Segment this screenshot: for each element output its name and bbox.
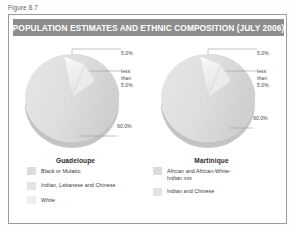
leader-line-top-guadeloupe bbox=[72, 49, 121, 54]
pie-label-bottom-martinique: 90.0% bbox=[253, 115, 268, 122]
pie-chart-martinique: 5.0% less than 5.0% 90.0% Martinique bbox=[149, 38, 284, 166]
figure-container: Figure 8.7 POPULATION ESTIMATES AND ETHN… bbox=[0, 0, 296, 232]
pie-label-middle-guadeloupe: less than 5.0% bbox=[121, 68, 133, 90]
legend-item: African and African-White- Indian mix bbox=[153, 167, 288, 182]
legend-item-label: White bbox=[41, 196, 55, 204]
legend-item: Indian, Lebanese and Chinese bbox=[27, 182, 162, 191]
chart-caption-guadeloupe: Guadeloupe bbox=[13, 157, 138, 164]
legend-item: Black or Mulatto bbox=[27, 167, 162, 176]
legend-item: Indian and Chinese bbox=[153, 188, 288, 197]
legend-swatch-icon bbox=[153, 188, 162, 196]
figure-panel: POPULATION ESTIMATES AND ETHNIC COMPOSIT… bbox=[8, 14, 287, 224]
pie-chart-guadeloupe: 5.0% less than 5.0% 90.0% Guadeloupe bbox=[13, 38, 148, 166]
pie-label-top-guadeloupe: 5.0% bbox=[121, 50, 133, 57]
chart-caption-martinique: Martinique bbox=[149, 157, 274, 164]
pie-svg-martinique bbox=[153, 40, 279, 156]
legend-swatch-icon bbox=[27, 196, 36, 204]
pie-label-bottom-guadeloupe: 90.0% bbox=[117, 123, 132, 130]
legend: Black or Mulatto Indian, Lebanese and Ch… bbox=[13, 167, 284, 220]
legend-swatch-icon bbox=[153, 167, 162, 175]
pie-label-top-martinique: 5.0% bbox=[257, 50, 269, 57]
legend-item-label: African and African-White- Indian mix bbox=[167, 167, 231, 182]
legend-swatch-icon bbox=[27, 167, 36, 175]
legend-item-label: Indian and Chinese bbox=[167, 188, 214, 196]
legend-item: White bbox=[27, 196, 162, 205]
legend-item-label: Black or Mulatto bbox=[41, 167, 80, 175]
legend-item-label: Indian, Lebanese and Chinese bbox=[41, 182, 116, 190]
charts-area: 5.0% less than 5.0% 90.0% Guadeloupe bbox=[13, 38, 284, 166]
page-title: POPULATION ESTIMATES AND ETHNIC COMPOSIT… bbox=[13, 23, 285, 33]
title-bar: POPULATION ESTIMATES AND ETHNIC COMPOSIT… bbox=[13, 19, 284, 36]
legend-swatch-icon bbox=[27, 182, 36, 190]
figure-caption: Figure 8.7 bbox=[8, 4, 38, 11]
leader-line-top-martinique bbox=[208, 49, 257, 54]
pie-label-middle-martinique: less than 5.0% bbox=[257, 68, 269, 90]
legend-column-guadeloupe: Black or Mulatto Indian, Lebanese and Ch… bbox=[27, 167, 162, 211]
pie-svg-guadeloupe bbox=[17, 40, 143, 156]
legend-column-martinique: African and African-White- Indian mix In… bbox=[153, 167, 288, 202]
